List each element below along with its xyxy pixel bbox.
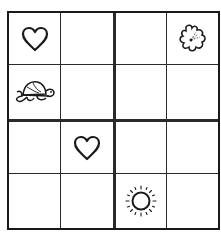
cell-r3-c1[interactable] [9,122,60,173]
cell-r1-c4[interactable] [167,13,218,64]
cell-r4-c1[interactable] [9,174,60,228]
cell-r2-c1[interactable] [9,65,60,119]
turtle-icon [13,77,57,107]
cell-r2-c3[interactable] [116,65,166,119]
cell-r1-c1[interactable] [9,13,60,64]
cell-r4-c3[interactable] [116,174,166,228]
heart-icon [73,135,101,161]
cell-r4-c4[interactable] [167,174,218,228]
cell-r1-c2[interactable] [61,13,113,64]
sun-icon [124,184,158,218]
cell-r1-c3[interactable] [116,13,166,64]
cell-r3-c3[interactable] [116,122,166,173]
cell-r3-c2[interactable] [61,122,113,173]
cell-r4-c2[interactable] [61,174,113,228]
cell-r2-c4[interactable] [167,65,218,119]
cell-r3-c4[interactable] [167,122,218,173]
sudoku-board [7,11,220,230]
cell-r2-c2[interactable] [61,65,113,119]
flower-icon [176,23,210,55]
heart-icon [21,26,49,52]
